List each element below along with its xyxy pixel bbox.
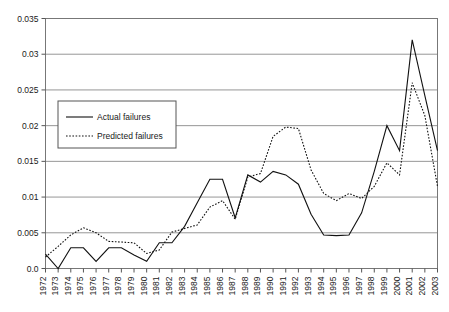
x-tick-label: 1989 <box>252 276 262 295</box>
x-tick-label: 1987 <box>227 276 237 295</box>
y-tick-label: 0.015 <box>17 156 39 166</box>
x-tick-label: 2003 <box>430 276 440 295</box>
x-tick-label: 1972 <box>38 276 48 295</box>
x-tick-label: 1983 <box>177 276 187 295</box>
y-tick-label: 0.03 <box>22 49 39 59</box>
chart-container: 0.00.0050.010.0150.020.0250.030.035 1972… <box>0 0 449 312</box>
x-tick-label: 1997 <box>354 276 364 295</box>
x-tick-label: 1985 <box>202 276 212 295</box>
x-tick-label: 1990 <box>265 276 275 295</box>
y-tick-label: 0.01 <box>22 192 39 202</box>
y-tick-label: 0.025 <box>17 85 39 95</box>
y-tick-label: 0.02 <box>22 121 39 131</box>
x-tick-label: 1994 <box>316 276 326 295</box>
x-tick-label: 1982 <box>164 276 174 295</box>
y-tick-label: 0.0 <box>27 264 39 274</box>
x-tick-label: 1976 <box>88 276 98 295</box>
x-tick-label: 1986 <box>215 276 225 295</box>
x-tick-label: 1995 <box>328 276 338 295</box>
x-tick-label: 1981 <box>151 276 161 295</box>
x-tick-label: 1974 <box>63 276 73 295</box>
y-tick-label: 0.005 <box>17 228 39 238</box>
x-tick-label: 1980 <box>139 276 149 295</box>
x-tick-label: 1992 <box>290 276 300 295</box>
x-tick-label: 1998 <box>366 276 376 295</box>
y-axis-tick-labels: 0.00.0050.010.0150.020.0250.030.035 <box>17 14 39 274</box>
x-tick-label: 1973 <box>50 276 60 295</box>
x-tick-label: 2000 <box>392 276 402 295</box>
legend-label-predicted-failures: Predicted failures <box>97 131 163 141</box>
x-tick-label: 1993 <box>303 276 313 295</box>
y-axis-ticks <box>42 19 46 269</box>
x-tick-label: 1988 <box>240 276 250 295</box>
line-chart: 0.00.0050.010.0150.020.0250.030.035 1972… <box>0 0 449 312</box>
x-tick-label: 1984 <box>189 276 199 295</box>
x-tick-label: 1979 <box>126 276 136 295</box>
x-axis-tick-labels: 1972197319741975197619771978197919801981… <box>38 276 440 295</box>
y-tick-label: 0.035 <box>17 14 39 24</box>
legend-label-actual-failures: Actual failures <box>97 112 150 122</box>
x-tick-label: 1996 <box>341 276 351 295</box>
chart-legend: Actual failures Predicted failures <box>58 101 176 148</box>
x-tick-label: 1991 <box>278 276 288 295</box>
x-tick-label: 2001 <box>404 276 414 295</box>
x-axis-ticks <box>46 269 438 273</box>
x-tick-label: 1977 <box>101 276 111 295</box>
x-tick-label: 2002 <box>417 276 427 295</box>
x-tick-label: 1975 <box>75 276 85 295</box>
x-tick-label: 1978 <box>113 276 123 295</box>
series-line-actual-failures <box>46 40 438 269</box>
x-tick-label: 1999 <box>379 276 389 295</box>
